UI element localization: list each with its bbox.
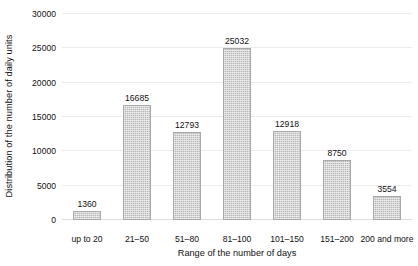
bar-slot: 12918	[262, 0, 312, 220]
x-axis-title: Range of the number of days	[62, 248, 412, 258]
y-axis-tick-label: 20000	[32, 78, 56, 88]
bar-value-label: 12793	[175, 120, 199, 130]
bar-slot: 25032	[212, 0, 262, 220]
y-axis-title-text: Distribution of the number of daily unit…	[4, 35, 14, 198]
y-axis-title: Distribution of the number of daily unit…	[0, 0, 18, 232]
plot-area: 13601668512793250321291887503554	[62, 0, 412, 232]
bar-value-label: 12918	[275, 119, 299, 129]
x-axis-tick-label: 81–100	[223, 234, 252, 244]
x-axis-tick-label: 21–50	[125, 234, 149, 244]
bar-value-label: 25032	[225, 36, 249, 46]
bar-slot: 16685	[112, 0, 162, 220]
bar	[173, 132, 201, 220]
x-axis-tick-labels: up to 2021–5051–8081–100101–150151–20020…	[62, 232, 412, 248]
y-axis-tick-label: 0	[51, 215, 56, 225]
y-axis-tick-label: 5000	[37, 181, 56, 191]
bar-value-label: 1360	[77, 199, 96, 209]
x-axis-tick-label: 101–150	[270, 234, 303, 244]
bar	[273, 131, 301, 220]
bar-value-label: 8750	[327, 148, 346, 158]
bar-slot: 1360	[62, 0, 112, 220]
bar-slot: 3554	[362, 0, 412, 220]
bar-value-label: 16685	[125, 93, 149, 103]
y-axis-tick-label: 15000	[32, 112, 56, 122]
y-axis-tick-label: 10000	[32, 146, 56, 156]
bar	[223, 48, 251, 220]
bar-chart: Distribution of the number of daily unit…	[0, 0, 418, 266]
x-axis-tick-label: 151–200	[320, 234, 353, 244]
bar-slot: 12793	[162, 0, 212, 220]
y-axis-tick-label: 25000	[32, 43, 56, 53]
x-axis-tick-label: up to 20	[71, 234, 102, 244]
y-axis-tick-label: 30000	[32, 9, 56, 19]
bar	[373, 196, 401, 220]
y-axis-tick-labels: 050001000015000200002500030000	[18, 0, 60, 232]
bar-slot: 8750	[312, 0, 362, 220]
x-axis-tick-label: 51–80	[175, 234, 199, 244]
bar	[323, 160, 351, 220]
bar-series: 13601668512793250321291887503554	[62, 0, 412, 232]
x-axis-tick-label: 200 and more	[360, 234, 413, 244]
bar	[123, 105, 151, 220]
bar-value-label: 3554	[377, 184, 396, 194]
bar	[73, 211, 101, 220]
